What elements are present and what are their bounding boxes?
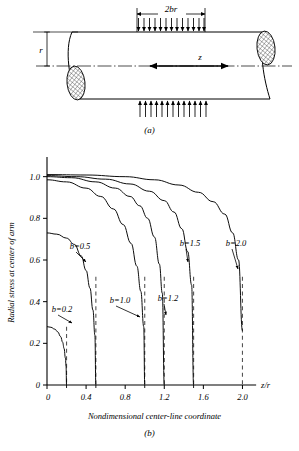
curve-label-b15: b=1.5 [180,238,201,248]
x-tick-label: 0.8 [120,392,131,402]
z-axis-arrow: z [150,52,228,66]
curve-b02 [47,327,67,385]
bottom-load-arrows [140,101,206,117]
curve-b15 [47,176,194,385]
right-cross-section-hatch [255,30,276,66]
caption-panel-b: (b) [0,428,299,438]
radius-dimension-r: r [33,32,78,66]
curve-label-b12: b=1.2 [158,293,179,303]
curve-label-b02: b=0.2 [52,304,73,314]
x-tick-label: 0.4 [81,392,92,402]
x-tick-label: 1.6 [198,392,209,402]
x-tick-label: 2.0 [237,392,248,402]
y-tick-label: 0.8 [29,213,40,223]
y-axis-title: Radial stress at center of arm [6,222,16,324]
x-origin-label: 0 [46,392,51,402]
x-tick-label: 1.2 [159,392,170,402]
caption-panel-a: (a) [0,125,299,135]
y-tick-label: 0.2 [29,338,40,348]
chart-curve-labels: b=0.2b=0.5b=1.0b=1.2b=1.5b=2.0 [52,238,247,323]
panel-a-cylinder-diagram: 2br [0,0,299,145]
curve-label-b20: b=2.0 [226,238,247,248]
x-axis-symbol: z/r [260,380,271,390]
left-cross-section-hatch [65,65,86,101]
load-dimension-2br: 2br [137,4,205,32]
curve-label-b10: b=1.0 [110,295,131,305]
y-tick-label: 0 [36,380,41,390]
top-load-arrows [139,18,205,31]
y-tick-label: 0.4 [29,297,40,307]
chart-asymptote-lines [67,277,243,385]
figure-container: 2br [0,0,299,451]
radial-stress-chart: 00.20.40.60.81.00.40.81.21.62.00 b=0.2b=… [0,145,299,451]
dimension-2br-label: 2br [165,4,178,14]
chart-axes: 00.20.40.60.81.00.40.81.21.62.00 [29,157,256,402]
y-tick-label: 0.6 [29,255,40,265]
z-axis-label: z [197,52,202,62]
dimension-r-label: r [39,45,43,55]
panel-b-chart: 00.20.40.60.81.00.40.81.21.62.00 b=0.2b=… [0,145,299,451]
y-tick-label: 1.0 [29,172,40,182]
x-axis-title: Nondimensional center-line coordinate [87,411,221,421]
curve-label-b05: b=0.5 [70,241,91,251]
